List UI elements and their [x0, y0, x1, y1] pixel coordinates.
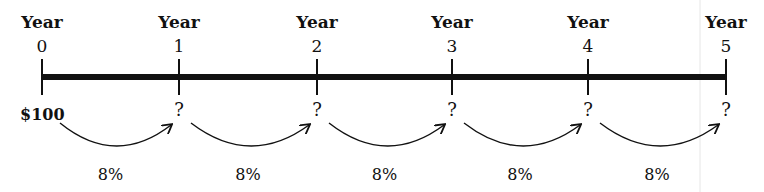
year-label: Year [431, 14, 472, 31]
year-number: 3 [447, 38, 458, 55]
year-label: Year [296, 14, 337, 31]
rate-label: 8% [235, 167, 260, 183]
rate-label: 8% [372, 167, 397, 183]
year-number: 5 [721, 38, 732, 55]
year-number: 1 [174, 38, 185, 55]
timeline-graphic [0, 0, 764, 192]
year-label: Year [21, 14, 62, 31]
year-label: Year [705, 14, 746, 31]
unknown-value: ? [447, 101, 457, 119]
year-number: 2 [312, 38, 323, 55]
growth-arrow [329, 123, 444, 146]
unknown-value: ? [583, 101, 593, 119]
year-number: 4 [583, 38, 594, 55]
growth-arrow [60, 123, 171, 146]
year-number: 0 [37, 38, 48, 55]
year-label: Year [158, 14, 199, 31]
start-value: $100 [20, 105, 65, 124]
growth-arrow [191, 123, 309, 146]
growth-arrow [464, 123, 580, 146]
year-label: Year [567, 14, 608, 31]
unknown-value: ? [721, 101, 731, 119]
timeline-diagram: Year0Year1?8%Year2?8%Year3?8%Year4?8%Yea… [0, 0, 764, 192]
unknown-value: ? [174, 101, 184, 119]
rate-label: 8% [507, 167, 532, 183]
rate-label: 8% [98, 167, 123, 183]
unknown-value: ? [312, 101, 322, 119]
rate-label: 8% [644, 167, 669, 183]
